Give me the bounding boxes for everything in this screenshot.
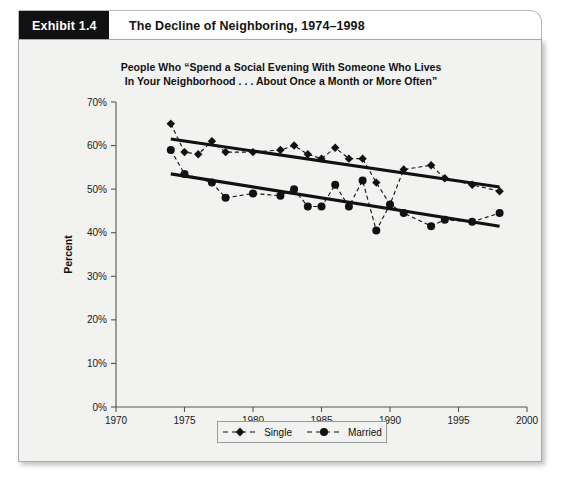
data-point-diamond (495, 187, 503, 195)
exhibit-number-badge: Exhibit 1.4 (19, 11, 109, 41)
y-axis-tick-label: 50% (87, 184, 107, 195)
y-axis-title: Percent (62, 235, 74, 274)
data-point-circle (468, 218, 476, 226)
data-point-diamond (276, 146, 284, 154)
data-point-circle (386, 200, 394, 208)
y-axis-tick-label: 30% (87, 271, 107, 282)
data-point-circle (181, 170, 189, 178)
legend-swatch-single-icon (222, 426, 258, 438)
data-point-circle (400, 209, 408, 217)
data-point-circle (276, 192, 284, 200)
data-point-circle (318, 203, 326, 211)
y-axis-tick-label: 0% (93, 402, 108, 413)
data-point-circle (427, 222, 435, 230)
y-axis: 0%10%20%30%40%50%60%70% (87, 97, 116, 413)
x-axis-tick-label: 2000 (516, 415, 539, 426)
data-point-circle (331, 181, 339, 189)
y-axis-tick-label: 20% (87, 314, 107, 325)
legend-label-married: Married (348, 427, 382, 438)
data-point-circle (208, 179, 216, 187)
y-axis-title-group: Percent (62, 235, 74, 274)
data-point-circle (290, 185, 298, 193)
chart-legend: Single Married (217, 421, 387, 443)
data-point-circle (222, 194, 230, 202)
series-single (167, 120, 504, 209)
x-axis-tick-label: 1970 (105, 415, 128, 426)
legend-item-single: Single (222, 426, 292, 438)
data-point-circle (441, 216, 449, 224)
legend-swatch-married-icon (306, 426, 342, 438)
data-point-circle (359, 176, 367, 184)
data-point-circle (496, 209, 504, 217)
data-point-diamond (372, 178, 380, 186)
legend-label-single: Single (264, 427, 292, 438)
data-point-diamond (358, 154, 366, 162)
exhibit-header: Exhibit 1.4 The Decline of Neighboring, … (18, 10, 542, 40)
y-axis-tick-label: 60% (87, 140, 107, 151)
line-chart-svg: 0%10%20%30%40%50%60%70% 1970197519801985… (19, 40, 543, 463)
y-axis-tick-label: 10% (87, 358, 107, 369)
data-point-circle (167, 146, 175, 154)
exhibit-title: The Decline of Neighboring, 1974–1998 (129, 11, 365, 41)
y-axis-tick-label: 40% (87, 227, 107, 238)
legend-item-married: Married (306, 426, 382, 438)
x-axis-tick-label: 1995 (447, 415, 470, 426)
data-point-diamond (167, 120, 175, 128)
data-point-diamond (290, 141, 298, 149)
series-married (167, 146, 504, 235)
exhibit-panel: Exhibit 1.4 The Decline of Neighboring, … (18, 10, 542, 462)
data-series-group (167, 120, 504, 235)
data-point-diamond (441, 174, 449, 182)
plot-area: 0%10%20%30%40%50%60%70% 1970197519801985… (19, 40, 543, 463)
data-point-circle (304, 203, 312, 211)
data-point-circle (249, 190, 257, 198)
data-point-diamond (180, 148, 188, 156)
data-point-circle (345, 203, 353, 211)
exhibit-figure-body: People Who “Spend a Social Evening With … (18, 39, 542, 462)
x-axis-tick-label: 1975 (173, 415, 196, 426)
data-point-circle (372, 227, 380, 235)
y-axis-tick-label: 70% (87, 97, 107, 108)
